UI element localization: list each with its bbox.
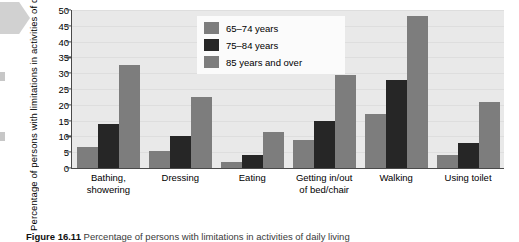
x-axis-line (71, 168, 504, 169)
bar[interactable] (386, 80, 407, 168)
y-axis-tick-mark (66, 104, 71, 105)
x-axis-category-label: Eating (216, 172, 288, 206)
x-axis-category-label: Walking (360, 172, 432, 206)
bar[interactable] (149, 151, 170, 168)
legend: 65–74 years 75–84 years 85 years and ove… (197, 16, 345, 74)
bar[interactable] (458, 143, 479, 168)
y-axis-tick-mark (66, 25, 71, 26)
y-axis-tick-mark (66, 136, 71, 137)
bar[interactable] (479, 102, 500, 168)
legend-item[interactable]: 85 years and over (204, 56, 338, 68)
y-axis-tick-mark (66, 120, 71, 121)
bar[interactable] (191, 97, 212, 168)
legend-item[interactable]: 65–74 years (204, 22, 338, 34)
page-edge-tick-mark (0, 132, 5, 141)
figure-caption-text: Percentage of persons with limitations i… (84, 231, 350, 242)
x-axis-category-label: Using toilet (432, 172, 504, 206)
legend-item-label: 75–84 years (226, 40, 278, 51)
bar-group (72, 10, 144, 168)
figure-caption: Figure 16.11 Percentage of persons with … (26, 231, 511, 242)
y-axis-title-text: Percentage of persons with limitations i… (27, 0, 40, 230)
bar[interactable] (293, 140, 314, 168)
bar[interactable] (335, 75, 356, 168)
bar[interactable] (263, 132, 284, 168)
y-axis-tick-mark (66, 73, 71, 74)
bar[interactable] (314, 121, 335, 168)
bar[interactable] (365, 114, 386, 168)
x-axis-category-label: Dressing (144, 172, 216, 206)
legend-swatch-icon (204, 22, 219, 34)
legend-swatch-icon (204, 56, 219, 68)
bar[interactable] (77, 147, 98, 168)
x-axis-category-labels: Bathing,showeringDressingEatingGetting i… (72, 172, 504, 206)
bar[interactable] (98, 124, 119, 168)
y-axis-tick-mark (66, 57, 71, 58)
y-axis-tick-mark (66, 152, 71, 153)
bar[interactable] (242, 155, 263, 168)
x-axis-category-label: Bathing,showering (72, 172, 144, 206)
page-edge-tick-mark (0, 72, 5, 81)
bar[interactable] (221, 162, 242, 168)
bar[interactable] (407, 16, 428, 168)
y-axis-tick-mark (66, 41, 71, 42)
y-axis-title: Percentage of persons with limitations i… (16, 8, 50, 180)
legend-item-label: 65–74 years (226, 23, 278, 34)
y-axis-tick-mark (66, 9, 71, 10)
legend-swatch-icon (204, 39, 219, 51)
bar[interactable] (119, 65, 140, 168)
bar-group (360, 10, 432, 168)
bar-group (432, 10, 504, 168)
bar[interactable] (170, 136, 191, 168)
legend-item[interactable]: 75–84 years (204, 39, 338, 51)
y-axis-tick-mark (66, 88, 71, 89)
x-axis-category-label: Getting in/outof bed/chair (288, 172, 360, 206)
bar[interactable] (437, 155, 458, 168)
figure-caption-label: Figure 16.11 (26, 231, 81, 242)
legend-item-label: 85 years and over (226, 57, 302, 68)
